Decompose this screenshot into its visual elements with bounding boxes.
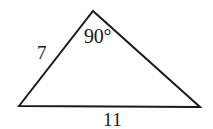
triangle-figure: 90° 7 11 <box>0 0 213 129</box>
angle-label-90-degrees: 90° <box>84 26 111 46</box>
side-length-label-left: 7 <box>37 43 47 62</box>
side-length-label-base: 11 <box>103 110 122 129</box>
